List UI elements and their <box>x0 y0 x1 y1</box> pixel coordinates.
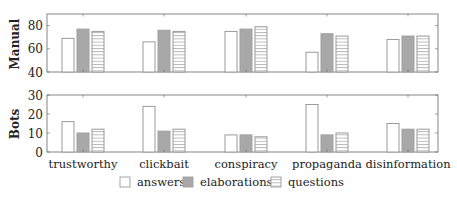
bar-answers <box>62 122 74 152</box>
y-tick-label: 0 <box>35 146 43 160</box>
bar-answers <box>387 124 399 153</box>
bar-questions <box>92 129 104 152</box>
x-tick-label: clickbait <box>139 157 189 171</box>
y-axis-label-bots: Bots <box>8 109 22 140</box>
y-axis-label-manual: Manual <box>8 18 22 69</box>
bar-questions <box>173 129 185 152</box>
bar-elaborations <box>77 133 89 152</box>
chart-canvas: 406080 Manual 0102030 Bots trustworthycl… <box>0 0 457 203</box>
bars-manual <box>62 27 429 72</box>
x-tick-label: conspiracy <box>214 157 278 171</box>
y-tick-label: 20 <box>28 108 43 122</box>
x-axis-category-labels: trustworthyclickbaitconspiracypropaganda… <box>49 157 452 171</box>
legend-swatch-answers <box>120 177 130 187</box>
legend-label-answers: answers <box>137 175 185 189</box>
bar-answers <box>306 105 318 153</box>
bar-elaborations <box>158 131 170 152</box>
bar-elaborations <box>77 29 89 72</box>
y-tick-label: 30 <box>28 89 43 103</box>
bar-elaborations <box>240 135 252 152</box>
bar-elaborations <box>402 36 414 72</box>
y-tick-label: 80 <box>28 19 43 33</box>
legend-label-elaborations: elaborations <box>200 175 273 189</box>
panel-bots: 0102030 Bots <box>8 89 438 160</box>
bar-answers <box>306 52 318 72</box>
x-tick-label: disinformation <box>365 157 451 171</box>
bar-answers <box>143 42 155 72</box>
bar-answers <box>225 135 237 152</box>
bar-elaborations <box>321 34 333 72</box>
bar-questions <box>173 31 185 72</box>
bars-bots <box>62 105 429 153</box>
bar-questions <box>417 129 429 152</box>
bar-questions <box>255 27 267 72</box>
y-tick-label: 10 <box>28 127 43 141</box>
x-tick-label: propaganda <box>292 157 362 171</box>
bar-answers <box>62 38 74 72</box>
panel-manual: 406080 Manual <box>8 14 438 80</box>
bar-elaborations <box>321 135 333 152</box>
bar-elaborations <box>240 29 252 72</box>
legend-label-questions: questions <box>288 175 344 189</box>
bar-elaborations <box>158 30 170 72</box>
bar-questions <box>92 31 104 72</box>
legend-swatch-elaborations <box>183 177 193 187</box>
bar-answers <box>225 31 237 72</box>
bar-elaborations <box>402 129 414 152</box>
bar-questions <box>336 36 348 72</box>
bar-answers <box>143 106 155 152</box>
y-tick-label: 40 <box>28 66 43 80</box>
grouped-bar-chart: 406080 Manual 0102030 Bots trustworthycl… <box>0 0 457 203</box>
bar-questions <box>255 137 267 152</box>
legend-swatch-questions <box>271 177 281 187</box>
legend: answerselaborationsquestions <box>120 175 344 189</box>
bar-answers <box>387 40 399 72</box>
y-tick-label: 60 <box>28 42 43 56</box>
bar-questions <box>336 133 348 152</box>
x-tick-label: trustworthy <box>49 157 118 171</box>
bar-questions <box>417 36 429 72</box>
